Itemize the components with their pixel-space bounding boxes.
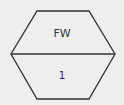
bottom-section-label: 1 — [0, 70, 124, 82]
top-section-label: FW — [0, 28, 124, 40]
hexagon-outline — [11, 11, 115, 99]
hexagon-diagram — [0, 0, 124, 105]
